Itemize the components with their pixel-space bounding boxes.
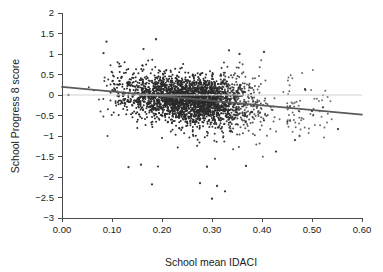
data-point: [166, 84, 168, 86]
data-point: [210, 115, 212, 117]
data-point: [221, 109, 223, 111]
data-point: [145, 83, 147, 85]
data-point: [231, 123, 233, 125]
data-point: [248, 119, 250, 121]
data-point-outlier: [275, 150, 277, 152]
data-point: [215, 85, 217, 87]
data-point: [241, 112, 243, 114]
data-point-outlier: [102, 52, 104, 54]
data-point: [219, 124, 221, 126]
data-point: [250, 87, 252, 89]
data-point: [221, 130, 223, 132]
data-point: [244, 121, 246, 123]
data-point: [256, 101, 258, 103]
data-point: [298, 134, 300, 136]
data-point: [230, 98, 232, 100]
data-point: [214, 108, 216, 110]
data-point: [221, 88, 223, 90]
data-point: [202, 107, 204, 109]
data-point: [187, 108, 189, 110]
data-point: [203, 120, 205, 122]
data-point: [244, 114, 246, 116]
data-point-outlier: [211, 198, 213, 200]
data-point: [140, 104, 142, 106]
data-point: [144, 91, 146, 93]
data-point: [244, 91, 246, 93]
data-point: [168, 116, 170, 118]
data-point: [187, 88, 189, 90]
data-point: [124, 61, 126, 63]
data-point: [237, 124, 239, 126]
data-point: [153, 115, 155, 117]
data-point: [226, 85, 228, 87]
data-point: [151, 96, 153, 98]
data-point: [169, 88, 171, 90]
data-point: [154, 117, 156, 119]
data-point: [201, 111, 203, 113]
data-point: [223, 118, 225, 120]
data-point: [235, 78, 237, 80]
data-point: [142, 65, 144, 67]
data-point: [124, 98, 126, 100]
data-point: [248, 130, 250, 132]
data-point: [300, 119, 302, 121]
data-point: [185, 79, 187, 81]
data-point: [210, 122, 212, 124]
data-point: [211, 86, 213, 88]
data-point: [214, 127, 216, 129]
data-point: [119, 71, 121, 73]
data-point: [127, 68, 129, 70]
data-point: [126, 88, 128, 90]
data-point: [175, 134, 177, 136]
data-point: [174, 104, 176, 106]
data-point: [154, 74, 156, 76]
data-point: [240, 126, 242, 128]
x-tick-label: 0.40: [253, 224, 272, 235]
data-point: [141, 117, 143, 119]
data-point: [308, 127, 310, 129]
data-point: [242, 132, 244, 134]
data-point: [203, 89, 205, 91]
data-point: [217, 126, 219, 128]
data-point: [175, 125, 177, 127]
data-point: [107, 78, 109, 80]
data-point: [230, 112, 232, 114]
data-point: [237, 75, 239, 77]
data-point: [148, 106, 150, 108]
data-point: [142, 90, 144, 92]
data-point: [136, 84, 138, 86]
data-point: [175, 80, 177, 82]
data-point: [154, 77, 156, 79]
data-point: [170, 119, 172, 121]
data-point: [236, 133, 238, 135]
data-point: [125, 113, 127, 115]
data-point: [200, 96, 202, 98]
data-point: [239, 100, 241, 102]
data-point: [224, 75, 226, 77]
data-point: [214, 133, 216, 135]
data-point: [230, 103, 232, 105]
data-point: [239, 134, 241, 136]
data-point: [243, 124, 245, 126]
data-point: [164, 72, 166, 74]
data-point: [202, 104, 204, 106]
data-point: [201, 88, 203, 90]
data-point: [216, 141, 218, 143]
data-point: [242, 82, 244, 84]
data-point: [205, 103, 207, 105]
data-point: [214, 123, 216, 125]
data-point: [194, 84, 196, 86]
data-point: [152, 106, 154, 108]
data-point: [140, 109, 142, 111]
data-point: [205, 112, 207, 114]
data-point: [174, 68, 176, 70]
data-point: [216, 91, 218, 93]
y-tick-label: −2.5: [35, 192, 54, 203]
data-point: [252, 78, 254, 80]
data-point: [189, 76, 191, 78]
data-point: [159, 79, 161, 81]
data-point: [132, 74, 134, 76]
data-point: [110, 83, 112, 85]
data-point: [197, 92, 199, 94]
data-point: [148, 82, 150, 84]
